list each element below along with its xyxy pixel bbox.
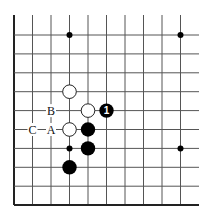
point-label-b: B — [47, 104, 55, 118]
point-labels: BAC — [28, 104, 57, 137]
white-stone-icon — [63, 123, 77, 137]
white-stone-icon — [81, 104, 95, 118]
move-number: 1 — [104, 105, 110, 116]
star-point-icon — [67, 32, 73, 38]
point-label-c: C — [28, 123, 36, 137]
black-stone-icon — [81, 122, 95, 136]
black-stone-icon — [81, 141, 95, 155]
star-point-icon — [178, 145, 184, 151]
go-board-diagram: BAC 1 — [0, 0, 209, 216]
star-point-icon — [178, 32, 184, 38]
star-point-icon — [67, 145, 73, 151]
white-stone-icon — [63, 85, 77, 99]
black-stone-icon — [62, 160, 76, 174]
point-label-a: A — [47, 123, 56, 137]
